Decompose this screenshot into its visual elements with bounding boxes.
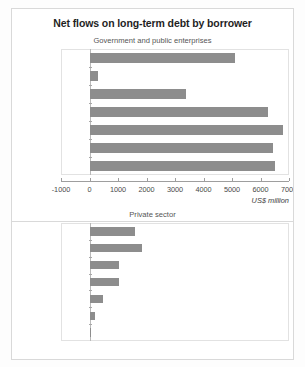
y-axis-tick-mark: [89, 139, 92, 140]
bar: [90, 53, 235, 62]
y-axis-tick-mark: [89, 67, 92, 68]
x-axis-tick-mark: [118, 178, 119, 181]
y-axis-tick-label: 1995: [11, 72, 12, 81]
y-axis-tick-mark: [89, 324, 92, 325]
x-axis-tick-mark: [261, 178, 262, 181]
y-axis-tick-label: 1996: [11, 54, 12, 63]
panel-private: Private sector 1996199519941993199219911…: [12, 210, 293, 341]
y-axis-tick-label: 1993: [11, 108, 12, 117]
y-axis-tick-label: 1991: [11, 311, 12, 320]
y-axis-tick-mark: [89, 307, 92, 308]
x-axis-tick-label: 1000: [110, 185, 126, 194]
chart-private: 1996199519941993199219911990: [12, 221, 293, 341]
x-axis-tick-mark: [204, 178, 205, 181]
y-axis-tick-label: 1991: [11, 144, 12, 153]
x-axis-tick-label: -1000: [52, 185, 71, 194]
panel-government-subtitle: Government and public enterprises: [12, 36, 293, 45]
bar: [90, 89, 187, 98]
y-axis-tick-mark: [89, 85, 92, 86]
bar: [90, 107, 268, 116]
bar: [90, 71, 99, 80]
bar: [90, 244, 143, 252]
y-axis-tick-mark: [89, 290, 92, 291]
bar: [90, 328, 92, 336]
bar: [90, 125, 284, 134]
bar: [90, 312, 95, 320]
y-axis-tick-label: 1994: [11, 90, 12, 99]
y-axis-tick-label: 1995: [11, 244, 12, 253]
bar: [90, 278, 120, 286]
x-axis-tick-label: 2000: [138, 185, 154, 194]
x-axis-tick-mark: [147, 178, 148, 181]
figure-title: Net flows on long-term debt by borrower: [12, 17, 293, 29]
y-axis-tick-mark: [89, 121, 92, 122]
bar: [90, 227, 136, 235]
x-axis-tick-mark: [90, 178, 91, 181]
y-axis-tick-label: 1994: [11, 261, 12, 270]
x-axis-tick-label: 5000: [224, 185, 240, 194]
x-axis-tick-label: 6000: [252, 185, 268, 194]
x-axis-tick-label: 7000: [281, 185, 294, 194]
y-axis-tick-mark: [89, 240, 92, 241]
x-axis-tick-mark: [61, 178, 62, 181]
x-axis-line: [61, 181, 289, 182]
y-axis-tick-label: 1993: [11, 278, 12, 287]
bar: [90, 261, 120, 269]
panel-government: Government and public enterprises 199619…: [12, 36, 293, 202]
bar: [90, 161, 275, 170]
figure-page: Net flows on long-term debt by borrower …: [0, 0, 305, 367]
y-axis-tick-label: 1990: [11, 162, 12, 171]
y-axis-tick-label: 1996: [11, 227, 12, 236]
y-axis-tick-label: 1992: [11, 126, 12, 135]
x-axis-tick-mark: [232, 178, 233, 181]
x-axis-units-label: US$ million: [252, 196, 289, 205]
x-axis-tick-label: 3000: [167, 185, 183, 194]
panel-private-subtitle: Private sector: [12, 210, 293, 219]
y-axis-tick-label: 1990: [11, 328, 12, 337]
x-axis-tick-mark: [289, 178, 290, 181]
bar: [90, 295, 103, 303]
bar: [90, 143, 274, 152]
y-axis-tick-label: 1992: [11, 294, 12, 303]
y-axis-tick-mark: [89, 103, 92, 104]
y-axis-tick-mark: [89, 257, 92, 258]
x-axis-tick-mark: [175, 178, 176, 181]
y-axis-tick-mark: [89, 157, 92, 158]
x-axis-tick-label: 4000: [195, 185, 211, 194]
chart-government: 1996199519941993199219911990 -1000010002…: [12, 47, 293, 202]
figure-card: Net flows on long-term debt by borrower …: [11, 8, 294, 360]
x-axis-tick-label: 0: [87, 185, 91, 194]
y-axis-tick-mark: [89, 274, 92, 275]
